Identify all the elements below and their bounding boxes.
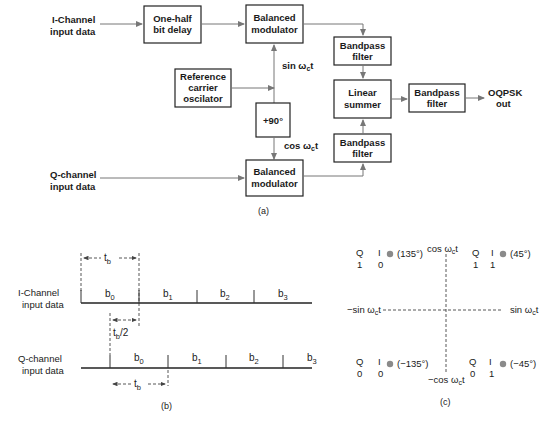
timing-q-label-2: input data <box>22 365 64 376</box>
i-bit-0: b0 <box>105 288 115 302</box>
i-header: I <box>378 247 381 258</box>
caption-b: (b) <box>161 401 172 411</box>
constellation-dot <box>500 361 506 367</box>
linear-summer-text: Linear <box>348 87 377 98</box>
oqpsk-out-label-2: out <box>496 98 512 109</box>
sin-carrier-label: sin ωct <box>282 60 314 72</box>
constellation-point-neg135: Q I 0 0 (−135°) <box>356 356 429 379</box>
half-tb-label: tb/2 <box>113 327 129 341</box>
modulator-block-diagram: I-Channel input data One-half bit delay … <box>50 5 522 216</box>
timing-diagram: tb I-Channel input data b0 b1 b2 b3 tb/2… <box>18 252 317 411</box>
phase-label: (−45°) <box>510 358 536 369</box>
i-header: I <box>378 356 381 367</box>
reference-oscillator-text: Reference <box>180 71 226 82</box>
q-value: 1 <box>357 259 362 270</box>
axis-sin-label: sin ωct <box>510 304 539 316</box>
q-header: Q <box>356 247 363 258</box>
tb-label-bottom: tb <box>134 378 141 392</box>
tb-label-top: tb <box>104 252 111 266</box>
caption-a: (a) <box>258 206 269 216</box>
oqpsk-out-label: OQPSK <box>488 87 522 98</box>
i-header: I <box>491 247 494 258</box>
axis-cos-label: cos ωct <box>427 243 458 255</box>
constellation-point-neg45: Q I 0 1 (−45°) <box>469 356 536 379</box>
constellation-dot <box>387 361 393 367</box>
constellation-dot <box>387 251 393 257</box>
constellation-point-45: Q I 1 1 (45°) <box>472 247 531 270</box>
bandpass-filter-top-text: Bandpass <box>340 40 385 51</box>
timing-q-label: Q-channel <box>18 353 62 364</box>
q-bit-0: b0 <box>134 352 144 366</box>
half-bit-delay-text: One-half <box>153 13 192 24</box>
half-bit-delay-text-2: bit delay <box>153 24 192 35</box>
q-bit-3: b3 <box>307 352 317 366</box>
reference-oscillator-text-3: oscilator <box>183 93 223 104</box>
i-header: I <box>489 356 492 367</box>
oqpsk-figure: I-Channel input data One-half bit delay … <box>0 0 558 430</box>
q-value: 0 <box>357 368 362 379</box>
reference-oscillator-text-2: carrier <box>188 82 218 93</box>
constellation-diagram: cos ωct −cos ωct −sin ωct sin ωct Q I 1 … <box>347 243 539 407</box>
timing-i-label-2: input data <box>22 299 64 310</box>
i-bit-1: b1 <box>163 288 173 302</box>
bandpass-filter-bottom-text: Bandpass <box>340 137 385 148</box>
balanced-modulator-top-text: Balanced <box>253 12 295 23</box>
q-value: 0 <box>470 368 475 379</box>
q-bit-2: b2 <box>249 352 259 366</box>
linear-summer-text-2: summer <box>344 99 381 110</box>
timing-i-label: I-Channel <box>18 287 59 298</box>
q-header: Q <box>472 247 479 258</box>
phase-shift-90-text: +90° <box>263 115 283 126</box>
phase-label: (135°) <box>397 248 423 259</box>
i-value: 1 <box>490 259 495 270</box>
axis-neg-cos-label: −cos ωct <box>428 374 465 386</box>
balanced-modulator-bottom-text: Balanced <box>253 166 295 177</box>
bandpass-filter-output-text-2: filter <box>427 98 448 109</box>
i-bit-2: b2 <box>220 288 230 302</box>
cos-carrier-label: cos ωct <box>284 140 319 152</box>
balanced-modulator-top-text-2: modulator <box>251 24 298 35</box>
q-header: Q <box>356 356 363 367</box>
constellation-dot <box>500 251 506 257</box>
constellation-point-135: Q I 1 0 (135°) <box>356 247 423 270</box>
bandpass-filter-output-text: Bandpass <box>414 87 459 98</box>
i-bit-3: b3 <box>278 288 288 302</box>
q-channel-input-label: Q-channel <box>50 169 96 180</box>
i-value: 0 <box>378 368 383 379</box>
phase-label: (−135°) <box>397 358 429 369</box>
bandpass-filter-top-text-2: filter <box>352 51 373 62</box>
caption-c: (c) <box>440 397 451 407</box>
bottom-mod-to-filter-arrow <box>303 164 363 176</box>
i-value: 1 <box>489 368 494 379</box>
i-channel-input-label-2: input data <box>50 26 96 37</box>
q-channel-input-label-2: input data <box>50 181 96 192</box>
bandpass-filter-bottom-text-2: filter <box>352 148 373 159</box>
phase-label: (45°) <box>510 248 531 259</box>
i-channel-input-label: I-Channel <box>52 14 95 25</box>
top-mod-to-filter-arrow <box>303 24 363 35</box>
q-value: 1 <box>473 259 478 270</box>
balanced-modulator-bottom-text-2: modulator <box>251 178 298 189</box>
q-header: Q <box>469 356 476 367</box>
q-bit-1: b1 <box>192 352 202 366</box>
i-value: 0 <box>378 259 383 270</box>
axis-neg-sin-label: −sin ωct <box>347 304 381 316</box>
